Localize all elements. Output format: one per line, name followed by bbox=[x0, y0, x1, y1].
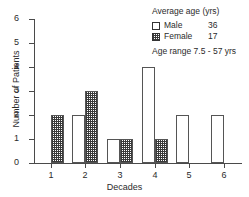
y-tick-0 bbox=[29, 163, 34, 164]
x-tick-label-4: 4 bbox=[145, 170, 165, 180]
bar-female-decade-3 bbox=[120, 139, 133, 163]
y-tick-5 bbox=[29, 43, 34, 44]
x-tick-label-6: 6 bbox=[214, 170, 234, 180]
y-tick-3 bbox=[29, 91, 34, 92]
legend-label-female: Female bbox=[164, 31, 208, 42]
legend: Average age (yrs) Male 36 Female 17 Age … bbox=[152, 6, 249, 57]
bar-male-decade-3 bbox=[107, 139, 120, 163]
bar-male-decade-4 bbox=[142, 67, 155, 163]
legend-item-female: Female 17 bbox=[152, 31, 249, 42]
legend-value-male: 36 bbox=[208, 20, 217, 31]
bar-male-decade-5 bbox=[176, 115, 189, 163]
y-tick-2 bbox=[29, 115, 34, 116]
x-tick-label-1: 1 bbox=[41, 170, 61, 180]
x-axis-line bbox=[34, 163, 242, 164]
x-tick-label-2: 2 bbox=[75, 170, 95, 180]
y-axis-line bbox=[34, 19, 35, 164]
x-tick-6 bbox=[224, 164, 225, 168]
legend-label-male: Male bbox=[164, 20, 208, 31]
legend-value-female: 17 bbox=[208, 31, 217, 42]
x-tick-4 bbox=[155, 164, 156, 168]
legend-item-male: Male 36 bbox=[152, 20, 249, 31]
x-tick-2 bbox=[85, 164, 86, 168]
x-tick-label-5: 5 bbox=[179, 170, 199, 180]
x-tick-label-3: 3 bbox=[110, 170, 130, 180]
x-tick-5 bbox=[189, 164, 190, 168]
female-swatch-icon bbox=[152, 33, 160, 41]
bar-male-decade-2 bbox=[72, 115, 85, 163]
y-tick-4 bbox=[29, 67, 34, 68]
x-tick-1 bbox=[51, 164, 52, 168]
x-tick-3 bbox=[120, 164, 121, 168]
age-range-note: Age range 7.5 - 57 yrs bbox=[152, 46, 249, 57]
bar-chart-figure: 0123456 123456 Number of Patients Decade… bbox=[0, 0, 249, 197]
male-swatch-icon bbox=[152, 22, 160, 30]
bar-female-decade-2 bbox=[85, 91, 98, 163]
y-tick-label-0: 0 bbox=[7, 158, 19, 167]
bar-female-decade-1 bbox=[51, 115, 64, 163]
x-axis-title: Decades bbox=[0, 182, 249, 192]
legend-title: Average age (yrs) bbox=[152, 6, 249, 17]
y-tick-6 bbox=[29, 19, 34, 20]
y-tick-label-6: 6 bbox=[7, 14, 19, 23]
y-tick-1 bbox=[29, 139, 34, 140]
bar-male-decade-6 bbox=[211, 115, 224, 163]
y-axis-title: Number of Patients bbox=[11, 29, 21, 149]
bar-female-decade-4 bbox=[155, 139, 168, 163]
